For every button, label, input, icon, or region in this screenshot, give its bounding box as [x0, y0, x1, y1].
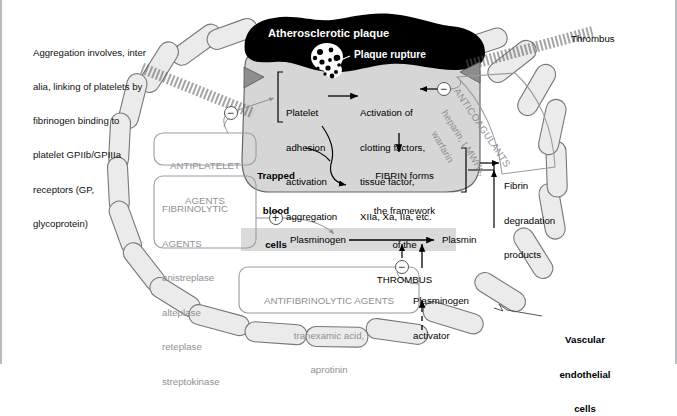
antifibrinolytic-agents[interactable]: ANTIFIBRINOLYTIC AGENTS tranexamic acid,… — [239, 272, 419, 399]
note-line: platelet GPIIb/GPIIIa — [33, 149, 146, 160]
cascade-line: the framework — [347, 205, 462, 217]
note-line: fibrinogen binding to — [33, 115, 146, 126]
fdp-line: degradation — [504, 215, 555, 227]
drug-line: FIBRINOLYTIC — [162, 203, 228, 215]
drug-item: streptokinase — [162, 376, 228, 388]
note-line: receptors (GP, — [33, 184, 146, 195]
drug-item: aprotinin — [239, 364, 419, 376]
anticoagulants-agents[interactable]: ANTICOAGULANTS heparin, LMWHs, warfarin — [457, 80, 557, 175]
plus-glyph: + — [272, 211, 279, 225]
vascular-endothelial-cells-label: Vascular endothelial cells — [547, 311, 623, 416]
drug-line: AGENTS — [162, 238, 228, 250]
drug-item: alteplase — [162, 307, 228, 319]
drug-item: reteplase — [162, 341, 228, 353]
cascade-line: FIBRIN forms — [347, 170, 462, 182]
vec-line: cells — [547, 403, 623, 415]
note-line: alia, linking of platelets by — [33, 81, 146, 92]
minus-glyph: − — [440, 82, 447, 96]
plaque-title: Atherosclerotic plaque — [268, 27, 389, 39]
activator-line: activator — [413, 330, 469, 342]
aggregation-note: Aggregation involves, inter alia, linkin… — [33, 24, 146, 252]
drug-item: tranexamic acid, — [239, 330, 419, 342]
drug-line: ANTIFIBRINOLYTIC AGENTS — [239, 295, 419, 307]
minus-glyph: − — [227, 106, 234, 120]
note-line: Aggregation involves, inter — [33, 47, 146, 58]
note-line: glycoprotein) — [33, 218, 146, 229]
cascade-line: Activation of — [360, 107, 432, 119]
plasmin-label: Plasmin — [442, 234, 476, 246]
thrombus-label: Thrombus — [571, 33, 615, 45]
fibrinolytic-agents[interactable]: FIBRINOLYTIC AGENTS anistreplase altepla… — [162, 180, 228, 410]
vec-line: Vascular — [547, 334, 623, 346]
fdp-line: Fibrin — [504, 180, 555, 192]
fibrin-degradation-products: Fibrin degradation products — [504, 157, 555, 284]
thrombus-hatch-left — [140, 63, 255, 118]
drug-item: anistreplase — [162, 272, 228, 284]
vec-line: endothelial — [547, 369, 623, 381]
minus-glyph: − — [398, 260, 405, 274]
fdp-line: products — [504, 249, 555, 261]
plaque-rupture-label: Plaque rupture — [354, 49, 426, 60]
plasminogen-label: Plasminogen — [290, 234, 346, 246]
plasminogen-activator-label: Plasminogen activator — [413, 272, 469, 364]
cascade-line: Platelet — [286, 107, 337, 119]
drug-line: ANTIPLATELET — [154, 160, 256, 172]
activator-line: Plasminogen — [413, 295, 469, 307]
